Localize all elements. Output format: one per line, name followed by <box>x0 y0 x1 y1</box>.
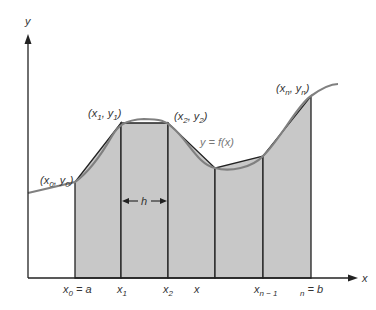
curve-label: y = f(x) <box>199 136 234 148</box>
x-axis-arrow-icon <box>348 275 358 282</box>
y-axis-arrow-icon <box>25 34 32 44</box>
tick-label-xn: n = b <box>300 283 323 298</box>
x-axis-label: x <box>361 272 368 284</box>
point-label-x1-y1: (x1, y1) <box>88 107 122 122</box>
trapezoid-1 <box>75 123 121 278</box>
trapezoid-4 <box>215 156 263 278</box>
trapezoids <box>75 96 311 278</box>
tick-label-x: x <box>193 283 200 295</box>
tick-label-xn-1: xn − 1 <box>253 283 278 298</box>
tick-label-x1: x1 <box>116 283 127 298</box>
h-label: h <box>141 195 147 207</box>
tick-label-x2: x2 <box>162 283 174 298</box>
y-axis-label: y <box>24 15 32 27</box>
point-label-x2-y2: (x2, y2) <box>174 110 208 125</box>
trapezoidal-rule-diagram: y x h (x0, y0) (x1, y1) (x2, y2) (xn, yn… <box>0 0 376 310</box>
point-label-xn-yn: (xn, yn) <box>276 82 310 97</box>
tick-label-x0: x0 = a <box>62 283 92 298</box>
